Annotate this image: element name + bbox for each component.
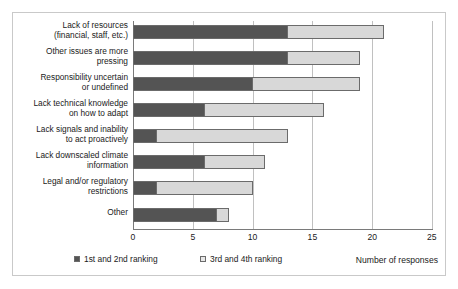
chart-container: Lack of resources (financial, staff, etc… [0, 0, 458, 289]
x-axis-line [133, 229, 433, 230]
legend-item-first-second-ranking: 1st and 2nd ranking [74, 254, 158, 264]
bar-segment-third-fourth [205, 103, 325, 117]
category-label-lack-downscaled-climate: Lack downscaled climate information [0, 150, 128, 170]
bar-segment-first-second [133, 77, 253, 91]
x-tick-label-5: 5 [190, 232, 195, 242]
table-row [133, 51, 360, 65]
bar-segment-first-second [133, 155, 205, 169]
bar-segment-third-fourth [205, 155, 265, 169]
category-label-other-issues-pressing: Other issues are more pressing [0, 46, 128, 66]
gridline-20 [372, 21, 373, 229]
bar-segment-third-fourth [157, 181, 253, 195]
bar-segment-third-fourth [157, 129, 289, 143]
category-label-lack-signals: Lack signals and inability to act proact… [0, 124, 128, 144]
table-row [133, 181, 253, 195]
x-tick-label-25: 25 [427, 232, 437, 242]
gridline-25 [432, 21, 433, 229]
table-row [133, 77, 360, 91]
x-tick-label-20: 20 [367, 232, 377, 242]
category-label-legal-regulatory: Legal and/or regulatory restrictions [0, 176, 128, 196]
x-tick-label-0: 0 [131, 232, 136, 242]
bar-segment-third-fourth [288, 51, 360, 65]
legend-swatch-icon-light [200, 256, 206, 262]
x-tick-label-10: 10 [248, 232, 258, 242]
bar-segment-first-second [133, 51, 288, 65]
bar-segment-first-second [133, 129, 157, 143]
table-row [133, 155, 265, 169]
table-row [133, 208, 229, 222]
category-label-lack-technical-knowledge: Lack technical knowledge on how to adapt [0, 98, 128, 118]
x-tick-label-15: 15 [308, 232, 318, 242]
bar-segment-first-second [133, 181, 157, 195]
legend-item-third-fourth-ranking: 3rd and 4th ranking [200, 254, 282, 264]
bar-segment-first-second [133, 103, 205, 117]
bar-segment-third-fourth [253, 77, 361, 91]
table-row [133, 25, 384, 39]
bar-segment-first-second [133, 208, 217, 222]
legend-label: 3rd and 4th ranking [210, 254, 282, 264]
bar-segment-first-second [133, 25, 288, 39]
bar-segment-third-fourth [217, 208, 229, 222]
category-label-responsibility-uncertain: Responsibility uncertain or undefined [0, 72, 128, 92]
table-row [133, 129, 288, 143]
table-row [133, 103, 324, 117]
legend-label: 1st and 2nd ranking [84, 254, 158, 264]
category-label-lack-of-resources: Lack of resources (financial, staff, etc… [0, 20, 128, 40]
x-axis-title: Number of responses [356, 255, 438, 265]
bar-segment-third-fourth [288, 25, 384, 39]
legend-swatch-icon-dark [74, 256, 80, 262]
category-label-other: Other [0, 207, 128, 217]
